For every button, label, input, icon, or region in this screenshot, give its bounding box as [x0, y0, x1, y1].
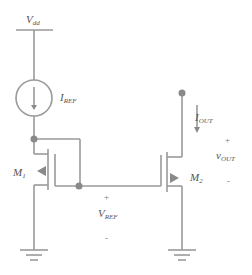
- current-mirror-schematic: [0, 0, 252, 275]
- vref-label: VREF: [98, 208, 118, 221]
- m1-label: M1: [13, 167, 26, 180]
- vref-minus: -: [105, 234, 108, 243]
- wires: [16, 30, 197, 260]
- m2-arrow-icon: [170, 173, 179, 183]
- vout-plus: +: [225, 136, 230, 145]
- vref-plus: +: [104, 193, 109, 202]
- iref-label: IREF: [60, 92, 77, 105]
- iref-arrow-icon: [31, 105, 37, 110]
- gate-node: [76, 183, 83, 190]
- vout-label: vOUT: [216, 150, 235, 163]
- drain-gate-node: [31, 136, 38, 143]
- iout-label: IOUT: [195, 112, 213, 125]
- vout-minus: -: [227, 177, 230, 186]
- m2-label: M2: [190, 172, 203, 185]
- output-node: [179, 90, 186, 97]
- vdd-label: Vdd: [26, 14, 40, 27]
- iout-arrow-icon: [194, 127, 200, 133]
- m1-arrow-icon: [37, 166, 46, 176]
